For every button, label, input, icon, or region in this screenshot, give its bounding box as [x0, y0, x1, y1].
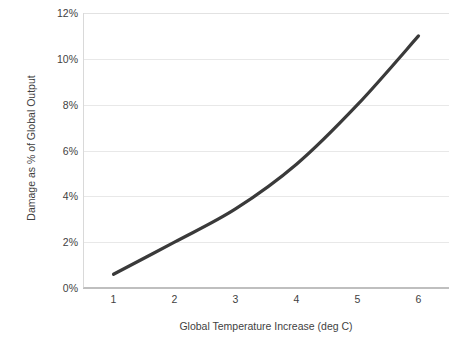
x-tick-label: 4 — [277, 293, 317, 305]
data-series-line — [83, 13, 449, 288]
y-tick-label: 12% — [34, 8, 78, 18]
x-axis-title: Global Temperature Increase (deg C) — [83, 320, 449, 332]
data-series-path — [114, 36, 419, 274]
x-tick-label: 2 — [155, 293, 195, 305]
y-tick-label: 0% — [34, 283, 78, 293]
y-tick-label: 4% — [34, 191, 78, 201]
chart-title-cropped — [38, 0, 418, 2]
y-tick-label: 8% — [34, 100, 78, 110]
y-tick-label: 2% — [34, 237, 78, 247]
plot-area — [83, 13, 449, 288]
x-tick-label: 1 — [94, 293, 134, 305]
y-axis-tick-labels: 12%10%8%6%4%2%0% — [34, 0, 78, 343]
x-tick-label: 3 — [216, 293, 256, 305]
x-tick-label: 6 — [399, 293, 439, 305]
x-tick-label: 5 — [338, 293, 378, 305]
chart-figure: Damage as % of Global Output 12%10%8%6%4… — [0, 0, 462, 343]
y-tick-label: 6% — [34, 146, 78, 156]
gridline — [83, 288, 449, 289]
x-axis-tick-labels: 123456 — [83, 293, 449, 309]
y-tick-label: 10% — [34, 54, 78, 64]
